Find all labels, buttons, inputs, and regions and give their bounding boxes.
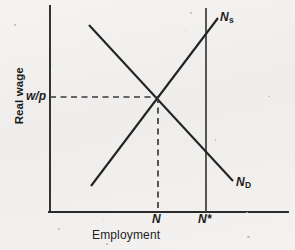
labour-demand-label-subscript: D [245, 180, 251, 190]
x-axis-title: Employment [92, 229, 160, 241]
x-axis-tick-label-n: N [152, 213, 161, 225]
labour-market-plot [0, 0, 295, 250]
labour-supply-label-base: N [220, 10, 229, 24]
labour-demand-curve [89, 25, 233, 181]
labour-demand-curve-label: ND [236, 176, 251, 188]
y-axis-title: Real wage [14, 56, 26, 136]
y-axis-tick-label-wage: w/p [26, 90, 46, 102]
labour-demand-label-base: N [236, 175, 245, 189]
labour-supply-label-subscript: s [229, 15, 234, 25]
x-axis-tick-label-n-star: N* [198, 213, 211, 225]
labour-supply-curve-label: Ns [220, 11, 233, 23]
labour-supply-curve [91, 18, 218, 186]
figure-root: Real wage Employment w/p N N* Ns ND [0, 0, 295, 250]
